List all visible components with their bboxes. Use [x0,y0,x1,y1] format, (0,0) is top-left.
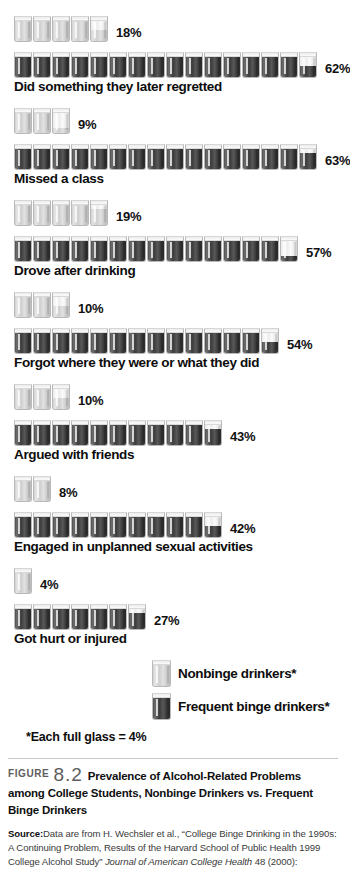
glass-icon [152,693,171,720]
glass-shadow [199,518,201,534]
glass-highlight [18,22,20,38]
glass-body [261,328,279,354]
glass-rim [91,421,108,425]
glass-body [52,52,70,78]
glass-icon [261,144,279,170]
glass-highlight [75,22,77,38]
glass-rim [167,421,184,425]
glass-shadow [104,22,106,38]
glass-icon [33,384,51,410]
glass-rim [281,53,298,57]
glass-body [52,16,70,42]
glass-body [71,604,89,630]
glass-body [14,16,32,42]
glass-rim [186,237,203,241]
glass-highlight [189,242,191,258]
glass-body [33,144,51,170]
glass-shadow [294,150,296,166]
bar-nonbinge: 4% [14,558,346,594]
glass-shadow [28,574,30,590]
glass-rim [34,329,51,333]
glass-rim [15,293,32,297]
glass-rim [53,145,70,149]
glass-icon [204,420,222,446]
glass-highlight [132,610,134,626]
glass-shadow [28,298,30,314]
chart-area: 18%62%Did something they later regretted… [0,0,346,646]
glass-rim [91,605,108,609]
glass-highlight [37,610,39,626]
glass-highlight [18,610,20,626]
percent-label-nonbinge: 9% [78,117,96,132]
glass-body [14,144,32,170]
glass-shadow [256,242,258,258]
glass-icon [14,292,32,318]
glass-shadow [142,242,144,258]
glass-shadow [66,242,68,258]
glass-icon [52,604,70,630]
glass-shadow [47,114,49,130]
glass-rim [153,661,171,665]
glass-shadow [66,610,68,626]
glass-rim [110,329,127,333]
glass-shadow [142,334,144,350]
bar-binge: 42% [14,502,346,538]
glass-body [33,236,51,262]
percent-label-binge: 63% [325,153,350,168]
glass-icon [71,512,89,538]
glass-shadow [47,610,49,626]
glass-icon [33,16,51,42]
chart-row: 19%57%Drove after drinking [0,190,346,278]
glass-highlight [208,426,210,442]
glass-shadow [313,150,315,166]
glass-rim [72,605,89,609]
glass-body [52,144,70,170]
glass-rim [148,145,165,149]
glass-highlight [208,518,210,534]
glass-icon [90,512,108,538]
glass-rim [167,237,184,241]
glass-highlight [56,58,58,74]
glass-highlight [75,518,77,534]
glass-body [33,108,51,134]
glass-body [90,512,108,538]
bar-nonbinge: 10% [14,282,346,318]
glass-rim [91,201,108,205]
glass-body [33,16,51,42]
glass-shadow [167,666,169,683]
glass-highlight [246,334,248,350]
glass-highlight [94,610,96,626]
glass-icon [33,512,51,538]
glass-icon [52,328,70,354]
glass-body [33,52,51,78]
glass-icon [109,604,127,630]
glass-body [33,328,51,354]
glass-body [223,236,241,262]
glass-icon [242,236,260,262]
row-label: Missed a class [14,171,346,186]
glass-rim [167,329,184,333]
glass-highlight [265,334,267,350]
glass-highlight [94,58,96,74]
glass-rim [186,145,203,149]
glass-highlight [18,242,20,258]
glass-shadow [161,242,163,258]
glass-rim [224,329,241,333]
glass-highlight [56,114,58,130]
glass-shadow [47,426,49,442]
glass-highlight [151,334,153,350]
glass-highlight [37,242,39,258]
glass-shadow [85,58,87,74]
glass-body [261,52,279,78]
percent-label-binge: 27% [154,613,179,628]
glass-shadow [66,298,68,314]
bar-binge: 43% [14,410,346,446]
legend-note: *Each full glass = 4% [26,730,346,744]
glass-rim [205,513,222,517]
glass-highlight [227,58,229,74]
glass-icon [185,144,203,170]
glass-shadow [142,610,144,626]
glass-rim [262,145,279,149]
glass-highlight [265,242,267,258]
glass-rim [243,329,260,333]
